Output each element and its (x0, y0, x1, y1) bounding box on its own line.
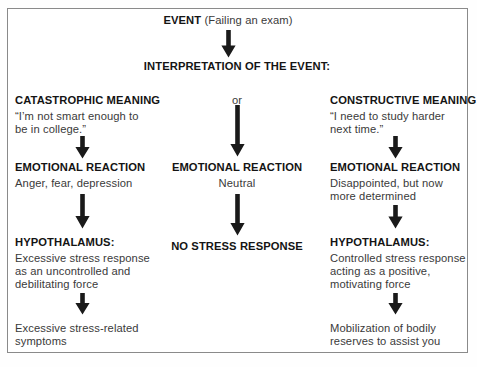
left-hypothalamus-line2: as an uncontrolled and (15, 265, 130, 279)
event-title-group: EVENT (Failing an exam) (163, 14, 292, 28)
left-outcome-line1: Excessive stress-related (15, 322, 139, 336)
left-meaning-quote-line2: be in college.” (15, 123, 86, 137)
right-meaning-quote-line2: next time.” (330, 123, 383, 137)
arrow-middle-or-to-reaction (230, 105, 245, 157)
arrow-right-meaning-to-reaction (388, 136, 403, 159)
right-hypothalamus-line1: Controlled stress response (330, 252, 466, 266)
right-reaction-line1: Disappointed, but now (330, 177, 443, 191)
left-hypothalamus-line3: debilitating force (15, 278, 98, 292)
right-hypothalamus-heading: HYPOTHALAMUS: (330, 236, 430, 250)
right-hypothalamus-line2: acting as a positive, (330, 265, 430, 279)
arrow-left-meaning-to-reaction (75, 136, 90, 159)
right-outcome-line2: reserves to assist you (330, 335, 440, 349)
right-hypothalamus-line3: motivating force (330, 278, 411, 292)
right-meaning-heading: CONSTRUCTIVE MEANING (330, 94, 476, 108)
left-meaning-quote-line1: “I’m not smart enough to (15, 110, 139, 124)
left-meaning-heading: CATASTROPHIC MEANING (15, 94, 160, 108)
middle-reaction-heading: EMOTIONAL REACTION (172, 161, 302, 175)
flowchart-figure: EVENT (Failing an exam) INTERPRETATION O… (0, 0, 477, 367)
left-outcome-line2: symptoms (15, 335, 67, 349)
arrow-middle-reaction-to-outcome (230, 194, 245, 236)
arrow-right-hypothalamus-to-outcome (388, 293, 403, 315)
arrow-event-to-interpretation (221, 30, 236, 58)
right-reaction-heading: EMOTIONAL REACTION (330, 161, 460, 175)
arrow-left-reaction-to-hypothalamus (75, 194, 90, 229)
left-hypothalamus-line1: Excessive stress response (15, 252, 150, 266)
left-reaction-heading: EMOTIONAL REACTION (15, 161, 145, 175)
interpretation-label: INTERPRETATION OF THE EVENT: (144, 60, 330, 74)
right-outcome-line1: Mobilization of bodily (330, 322, 436, 336)
left-reaction-text: Anger, fear, depression (15, 177, 132, 191)
event-detail: (Failing an exam) (201, 14, 292, 26)
middle-reaction-text: Neutral (219, 177, 256, 191)
arrow-right-reaction-to-hypothalamus (388, 205, 403, 229)
arrow-left-hypothalamus-to-outcome (75, 293, 90, 315)
middle-outcome: NO STRESS RESPONSE (171, 240, 303, 254)
right-meaning-quote-line1: “I need to study harder (330, 110, 445, 124)
right-reaction-line2: more determined (330, 190, 416, 204)
event-title: EVENT (163, 14, 201, 26)
left-hypothalamus-heading: HYPOTHALAMUS: (15, 236, 115, 250)
